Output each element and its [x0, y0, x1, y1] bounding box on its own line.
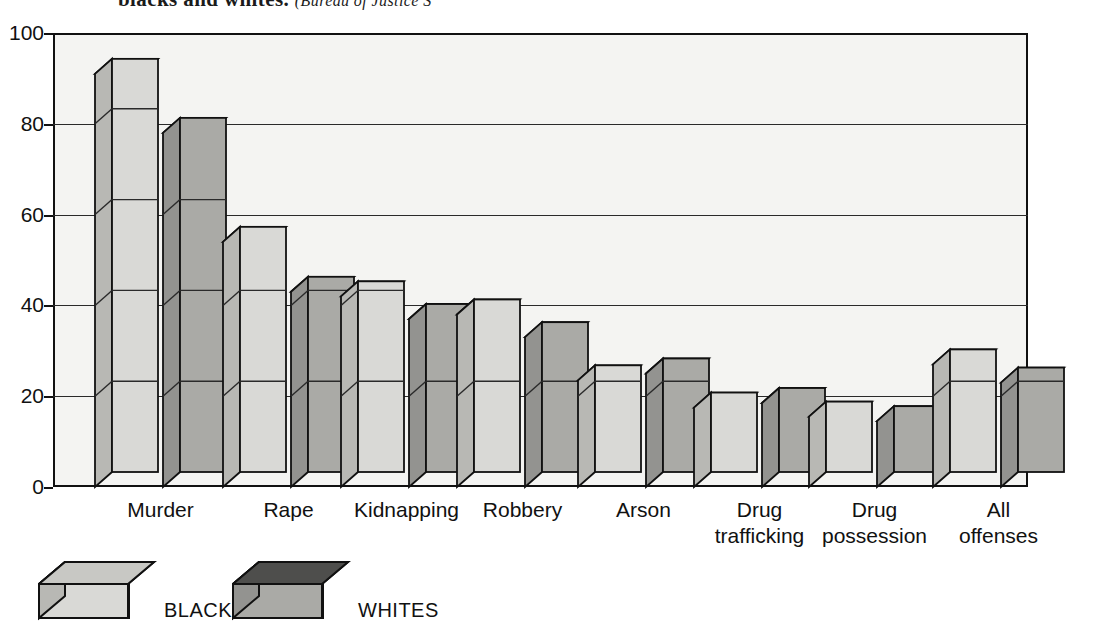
y-axis-tick-label: 80 [0, 112, 44, 136]
bar-blacks-murder [95, 33, 158, 487]
bar-blacks-drug-trafficking [694, 33, 757, 487]
caption-italic-text: (Bureau of Justice S [295, 0, 432, 9]
y-axis-tick-label: 0 [0, 475, 44, 499]
light-gray-3d-box-swatch [38, 561, 158, 621]
bar-outline [933, 33, 998, 487]
y-axis-tick-mark [44, 396, 53, 398]
bar-outline [809, 33, 874, 487]
bar-outline [223, 33, 288, 487]
y-axis-tick-label: 100 [0, 21, 44, 45]
y-axis-tick-mark [44, 305, 53, 307]
bar-blacks-arson [578, 33, 641, 487]
bar-blacks-robbery [457, 33, 520, 487]
bars-layer [53, 33, 1028, 487]
bar-whites-drug-possession [877, 33, 940, 487]
caption-bold-text: blacks and whites. [118, 0, 289, 11]
y-axis-tick-label: 20 [0, 384, 44, 408]
bar-outline [95, 33, 160, 487]
bar-outline [163, 33, 228, 487]
bar-whites-murder [163, 33, 226, 487]
bar-outline [578, 33, 643, 487]
bar-outline [457, 33, 522, 487]
bar-blacks-rape [223, 33, 286, 487]
bar-blacks-drug-possession [809, 33, 872, 487]
axis-baseline [53, 485, 1028, 487]
y-axis-tick-mark [44, 124, 53, 126]
y-axis-tick-label: 40 [0, 293, 44, 317]
bar-whites-all-offenses [1001, 33, 1064, 487]
x-axis-label-all-offenses: All offenses [909, 497, 1088, 549]
y-axis-tick-mark [44, 215, 53, 217]
bar-blacks-all-offenses [933, 33, 996, 487]
y-axis-tick-label: 60 [0, 203, 44, 227]
bar-outline [341, 33, 406, 487]
chart-page: blacks and whites. (Bureau of Justice S … [0, 0, 1093, 634]
plot-area [53, 33, 1028, 487]
bar-outline [694, 33, 759, 487]
y-axis-tick-mark [44, 487, 53, 489]
caption-strip: blacks and whites. (Bureau of Justice S [0, 0, 1093, 16]
y-axis-tick-mark [44, 33, 53, 35]
legend-label: WHITES [358, 599, 439, 622]
chart-legend: BLACKSWHITES [0, 553, 1093, 634]
bar-outline [1001, 33, 1066, 487]
caption-fragment: blacks and whites. (Bureau of Justice S [118, 0, 432, 12]
bar-blacks-kidnapping [341, 33, 404, 487]
dark-top-3d-box-swatch [232, 561, 352, 621]
